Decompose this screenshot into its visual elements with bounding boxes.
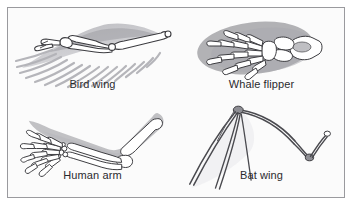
panel-whale-flipper: Whale flipper [177, 8, 346, 103]
human-arm-illustration [8, 103, 177, 198]
panel-human-arm: Human arm [8, 103, 177, 199]
homologous-structures-figure: Bird wing [0, 0, 352, 206]
panel-label-whale-flipper: Whale flipper [177, 78, 346, 90]
panel-bird-wing: Bird wing [8, 8, 177, 103]
figure-frame: Bird wing [7, 7, 345, 198]
panel-label-bird-wing: Bird wing [8, 78, 177, 90]
panel-bat-wing: Bat wing [177, 103, 346, 199]
bat-wing-illustration [177, 103, 346, 198]
panel-label-bat-wing: Bat wing [177, 169, 346, 181]
panel-label-human-arm: Human arm [8, 169, 177, 181]
